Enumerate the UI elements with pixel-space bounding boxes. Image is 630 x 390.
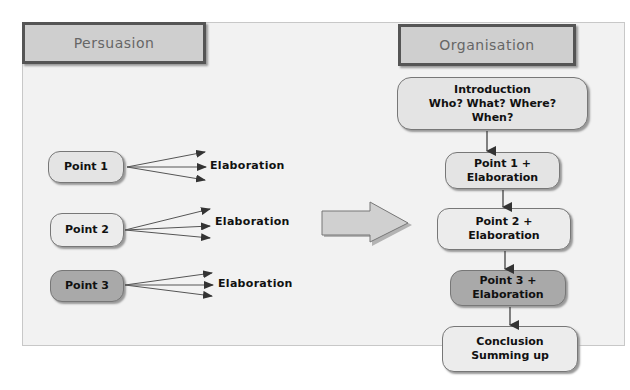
persuasion-point-1: Point 1	[48, 151, 124, 183]
persuasion-point-2: Point 2	[50, 213, 124, 247]
organisation-header: Organisation	[398, 24, 576, 66]
organisation-step-point-1: Point 1 + Elaboration	[445, 152, 560, 189]
persuasion-elaboration-1: Elaboration	[210, 159, 285, 172]
organisation-step-point-2: Point 2 + Elaboration	[437, 208, 571, 250]
persuasion-elaboration-3: Elaboration	[218, 277, 293, 290]
organisation-title: Organisation	[439, 37, 534, 53]
persuasion-title: Persuasion	[74, 35, 155, 51]
organisation-step-conclusion: Conclusion Summing up	[442, 326, 578, 372]
persuasion-elaboration-2: Elaboration	[215, 215, 290, 228]
organisation-step-introduction: Introduction Who? What? Where? When?	[397, 77, 588, 130]
persuasion-header: Persuasion	[22, 22, 206, 64]
persuasion-point-3: Point 3	[50, 270, 124, 302]
organisation-step-point-3: Point 3 + Elaboration	[450, 270, 566, 306]
